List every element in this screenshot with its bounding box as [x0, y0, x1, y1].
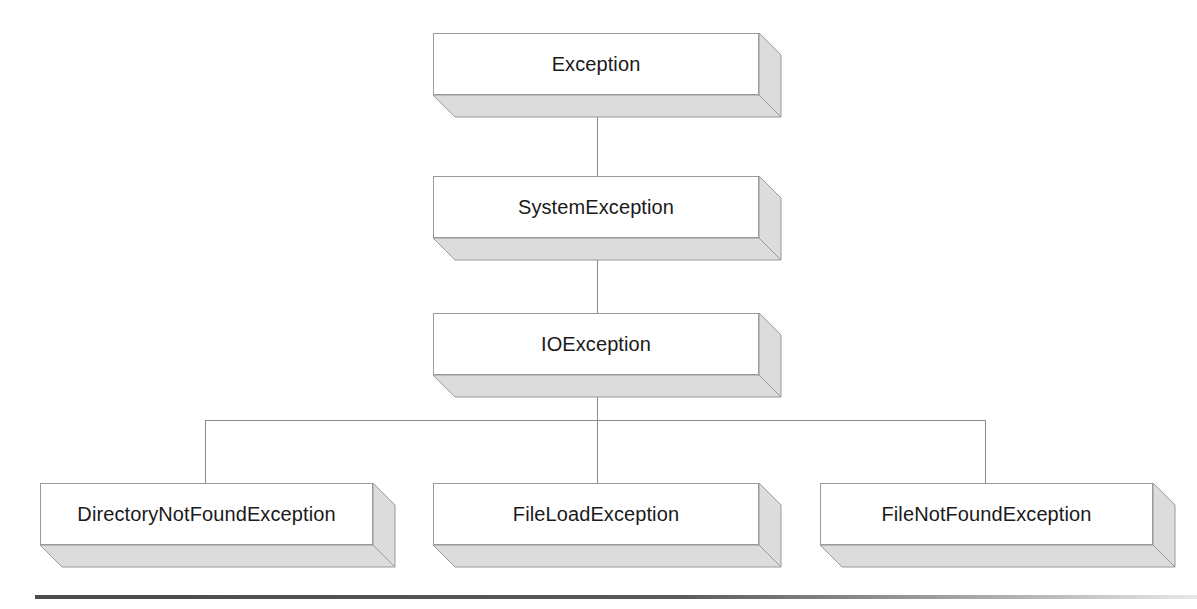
node-file-not-found-exception[interactable]: FileNotFoundException — [820, 483, 1175, 567]
node-label: SystemException — [518, 197, 674, 217]
node-system-exception[interactable]: SystemException — [433, 176, 781, 260]
node-front-face[interactable]: DirectoryNotFoundException — [40, 483, 373, 545]
node-directory-not-found-exception[interactable]: DirectoryNotFoundException — [40, 483, 395, 567]
node-bottom-face — [433, 95, 781, 117]
node-label: DirectoryNotFoundException — [77, 504, 335, 524]
node-io-exception[interactable]: IOException — [433, 313, 781, 397]
connector-drop-directorynotfoundexception — [205, 420, 206, 483]
connector-branch-bus — [205, 420, 985, 421]
node-front-face[interactable]: FileLoadException — [433, 483, 759, 545]
connector-drop-filenotfoundexception — [985, 420, 986, 483]
connector-drop-fileloadexception — [597, 420, 598, 483]
diagram-canvas: ExceptionSystemExceptionIOExceptionDirec… — [0, 0, 1197, 609]
node-label: FileNotFoundException — [882, 504, 1092, 524]
node-label: IOException — [541, 334, 651, 354]
node-front-face[interactable]: SystemException — [433, 176, 759, 238]
node-exception[interactable]: Exception — [433, 33, 781, 117]
node-bottom-face — [820, 545, 1175, 567]
node-label: FileLoadException — [513, 504, 679, 524]
node-bottom-face — [40, 545, 395, 567]
node-bottom-face — [433, 545, 781, 567]
bottom-rule — [35, 595, 1197, 599]
node-file-load-exception[interactable]: FileLoadException — [433, 483, 781, 567]
node-front-face[interactable]: IOException — [433, 313, 759, 375]
node-bottom-face — [433, 375, 781, 397]
node-label: Exception — [552, 54, 641, 74]
node-bottom-face — [433, 238, 781, 260]
node-front-face[interactable]: Exception — [433, 33, 759, 95]
node-front-face[interactable]: FileNotFoundException — [820, 483, 1153, 545]
